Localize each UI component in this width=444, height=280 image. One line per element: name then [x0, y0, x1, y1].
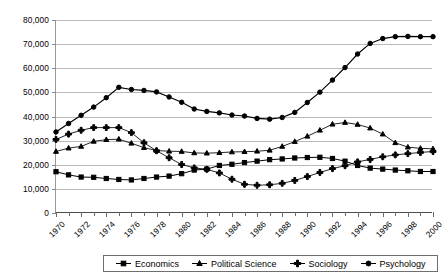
data-point	[66, 131, 72, 137]
data-point	[293, 110, 297, 114]
data-point	[66, 121, 70, 125]
data-point	[318, 155, 322, 159]
data-point	[406, 34, 410, 38]
y-axis-label: 80,000	[23, 15, 49, 25]
data-point	[254, 182, 260, 188]
y-axis-label: 50,000	[23, 87, 49, 97]
data-point	[406, 169, 410, 173]
data-point	[367, 156, 373, 162]
data-point	[91, 139, 96, 144]
data-point	[79, 175, 83, 179]
data-point	[255, 149, 260, 154]
data-point	[154, 90, 158, 94]
data-point	[179, 149, 184, 154]
data-point	[317, 170, 323, 176]
data-point	[405, 144, 410, 149]
data-point	[431, 34, 435, 38]
data-point	[330, 166, 336, 172]
legend-label: Economics	[135, 259, 179, 269]
data-point	[318, 90, 322, 94]
data-point	[304, 174, 310, 180]
data-point	[393, 140, 398, 145]
data-point	[368, 125, 373, 130]
x-axis-tick	[433, 212, 434, 217]
data-point	[268, 158, 272, 162]
data-point	[392, 152, 398, 158]
x-axis-label: 1976	[122, 219, 142, 239]
legend-label: Psychology	[380, 259, 426, 269]
data-point	[343, 65, 347, 69]
data-point	[292, 177, 298, 183]
data-point	[154, 175, 158, 179]
y-axis-label: 10,000	[23, 184, 49, 194]
data-point	[142, 88, 146, 92]
data-point	[179, 162, 185, 168]
x-axis-label: 1994	[348, 219, 368, 239]
series-layer	[56, 20, 433, 213]
series-economics	[54, 155, 435, 182]
x-axis-label: 1990	[298, 219, 318, 239]
data-point	[91, 125, 97, 131]
chart-legend: EconomicsPolitical ScienceSociologyPsych…	[103, 255, 438, 272]
circle-marker-icon	[360, 259, 377, 268]
legend-item-political-science[interactable]: Political Science	[191, 259, 277, 269]
data-point	[78, 127, 84, 133]
data-point	[293, 156, 297, 160]
legend-label: Political Science	[211, 259, 277, 269]
legend-item-economics[interactable]: Economics	[115, 259, 179, 269]
data-point	[242, 160, 246, 164]
data-point	[355, 52, 359, 56]
y-axis-label: 30,000	[23, 136, 49, 146]
data-point	[380, 154, 386, 160]
series-psychology	[54, 34, 435, 134]
data-point	[267, 182, 273, 188]
data-point	[267, 117, 271, 121]
x-axis-label: 1984	[223, 219, 243, 239]
x-axis-label: 1972	[72, 219, 92, 239]
data-point	[66, 173, 70, 177]
data-point	[393, 34, 397, 38]
data-point	[54, 130, 58, 134]
data-point	[368, 166, 372, 170]
data-point	[418, 34, 422, 38]
x-axis-label: 1970	[47, 219, 67, 239]
data-point	[381, 167, 385, 171]
triangle-marker-icon	[191, 259, 208, 268]
data-point	[242, 149, 247, 154]
data-point	[230, 113, 234, 117]
data-point	[91, 105, 95, 109]
data-point	[380, 131, 385, 136]
data-point	[54, 149, 59, 154]
data-point	[104, 137, 109, 142]
y-axis-label: 40,000	[23, 112, 49, 122]
legend-item-psychology[interactable]: Psychology	[360, 259, 426, 269]
x-axis-label: 1986	[248, 219, 268, 239]
data-point	[267, 148, 272, 153]
data-point	[167, 95, 171, 99]
legend-label: Sociology	[309, 259, 348, 269]
data-point	[142, 176, 146, 180]
data-point	[368, 41, 372, 45]
x-axis-label: 1988	[273, 219, 293, 239]
square-marker-icon	[115, 259, 132, 268]
data-point	[79, 113, 83, 117]
series-line	[56, 128, 433, 186]
data-point	[117, 177, 121, 181]
data-point	[117, 85, 121, 89]
data-point	[103, 125, 109, 131]
data-point	[92, 175, 96, 179]
data-point	[330, 78, 334, 82]
data-point	[229, 176, 235, 182]
data-point	[242, 181, 248, 187]
data-point	[79, 144, 84, 149]
data-point	[54, 170, 58, 174]
data-point	[129, 141, 134, 146]
data-point	[230, 162, 234, 166]
legend-item-sociology[interactable]: Sociology	[289, 259, 348, 269]
data-point	[129, 87, 133, 91]
data-point	[255, 116, 259, 120]
x-axis-label: 1992	[323, 219, 343, 239]
x-axis-label: 1996	[373, 219, 393, 239]
data-point	[179, 100, 183, 104]
x-axis-label: 1974	[97, 219, 117, 239]
